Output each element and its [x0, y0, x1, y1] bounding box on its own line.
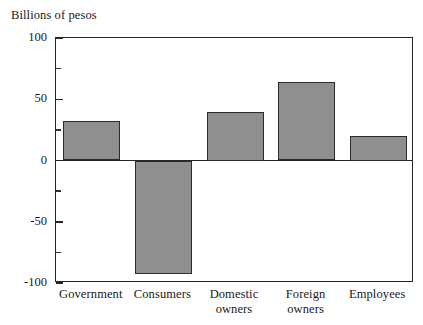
x-axis-category-label: Employees — [341, 287, 413, 302]
plot-area — [56, 38, 412, 281]
y-axis-title: Billions of pesos — [11, 8, 97, 22]
y-tick-major — [56, 282, 63, 284]
y-tick-label: 50 — [0, 92, 47, 104]
x-axis-category-label: Consumers — [127, 287, 199, 302]
x-axis-category-label: Domestic owners — [198, 287, 270, 317]
bar-chart: Billions of pesos 100500-50-100Governmen… — [0, 0, 423, 325]
bar — [278, 82, 335, 160]
y-tick-minor — [56, 68, 61, 69]
y-tick-label: -50 — [0, 215, 47, 227]
y-tick-minor — [56, 190, 61, 191]
x-axis-category-label: Government — [55, 287, 127, 302]
y-tick-label: -100 — [0, 276, 47, 288]
y-tick-major — [56, 37, 63, 39]
y-tick-major — [56, 221, 63, 223]
y-tick-minor — [56, 129, 61, 130]
y-tick-major — [56, 160, 63, 162]
bar — [350, 136, 407, 161]
bar — [63, 121, 120, 160]
y-tick-label: 100 — [0, 31, 47, 43]
plot-frame — [55, 37, 413, 282]
x-axis-category-label: Foreign owners — [270, 287, 342, 317]
bar — [207, 112, 264, 161]
y-tick-label: 0 — [0, 154, 47, 166]
y-tick-major — [56, 99, 63, 101]
bar — [135, 161, 192, 275]
y-tick-minor — [56, 252, 61, 253]
